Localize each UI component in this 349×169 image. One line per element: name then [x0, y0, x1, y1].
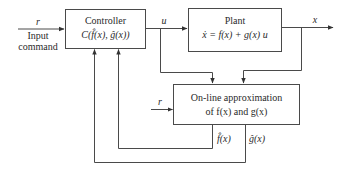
controller-block: Controller C(f̂(x), ĝ(x)): [66, 10, 146, 49]
approx-input-symbol-r: r: [158, 96, 162, 107]
state-symbol-x: x: [312, 14, 318, 25]
approximator-line1: On-line approximation: [191, 92, 282, 103]
plant-title: Plant: [225, 15, 246, 26]
plant-block: Plant ẋ = f(x) + g(x) u: [189, 9, 282, 52]
input-symbol-r: r: [36, 16, 40, 27]
adaptive-control-block-diagram: r Input command Controller C(f̂(x), ĝ(x)…: [0, 0, 349, 169]
controller-formula: C(f̂(x), ĝ(x)): [81, 28, 130, 41]
input-label-line1: Input: [27, 30, 48, 41]
g-hat-label: ĝ(x): [249, 133, 266, 145]
controller-title: Controller: [85, 15, 127, 26]
approximator-box: [174, 85, 300, 125]
input-label-line2: command: [18, 41, 57, 52]
approximator-block: On-line approximation of f(x) and g(x): [174, 85, 300, 125]
f-hat-label: f̂(x): [217, 132, 232, 145]
plant-formula: ẋ = f(x) + g(x) u: [201, 29, 267, 41]
control-symbol-u: u: [162, 15, 167, 26]
approximator-line2: of f(x) and g(x): [206, 106, 268, 118]
